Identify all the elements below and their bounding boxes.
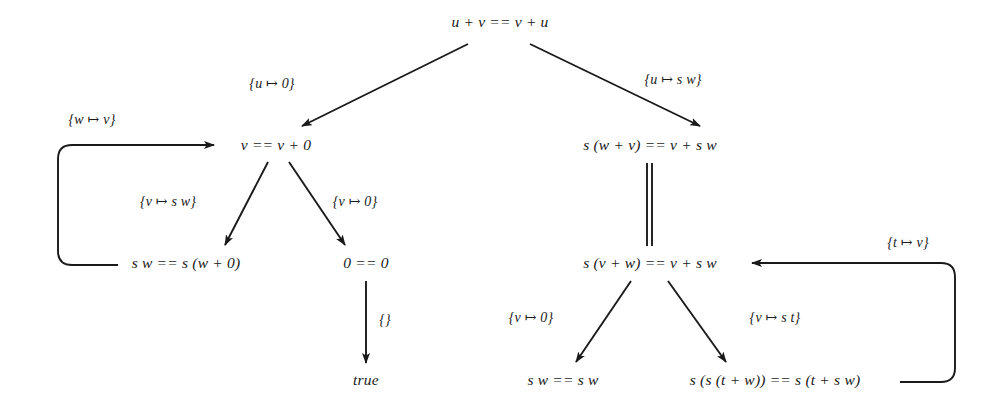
edge-right-to-right-leaf [668, 281, 726, 362]
edge-root-to-left-child [302, 44, 468, 126]
edge-equivalence-double-line [647, 163, 652, 246]
edge-label-v-maps-to-s-t: {v ↦ s t} [750, 310, 801, 325]
edge-label-u-maps-to-s-w: {u ↦ s w} [644, 72, 701, 87]
edge-label-t-maps-to-v: {t ↦ v} [887, 235, 928, 250]
edge-label-v-maps-to-s-w: {v ↦ s w} [140, 194, 196, 209]
node-left-level1: v == v + 0 [241, 136, 311, 153]
edge-left-to-left-leaf [225, 162, 268, 245]
node-right-level3-a: s w == s w [527, 371, 598, 388]
node-root: u + v == v + u [451, 13, 548, 30]
node-true-leaf: true [353, 371, 379, 388]
node-left-level2-a: s w == s (w + 0) [132, 254, 241, 271]
derivation-tree-diagram: u + v == v + u v == v + 0 s (w + v) == v… [0, 0, 995, 410]
edge-right-to-left-leaf [576, 281, 631, 362]
edge-label-empty-substitution: {} [379, 312, 391, 327]
node-right-level2: s (v + w) == v + s w [583, 254, 717, 271]
edge-label-w-maps-to-v: {w ↦ v} [69, 112, 116, 127]
edge-label-u-maps-to-0: {u ↦ 0} [249, 76, 294, 91]
edge-label-v-maps-to-0-left: {v ↦ 0} [333, 194, 378, 209]
edge-label-v-maps-to-0-right: {v ↦ 0} [509, 310, 554, 325]
node-right-level1: s (w + v) == v + s w [583, 136, 717, 153]
node-left-level2-b: 0 == 0 [343, 254, 388, 271]
node-right-level3-b: s (s (t + w)) == s (t + s w) [690, 371, 861, 388]
